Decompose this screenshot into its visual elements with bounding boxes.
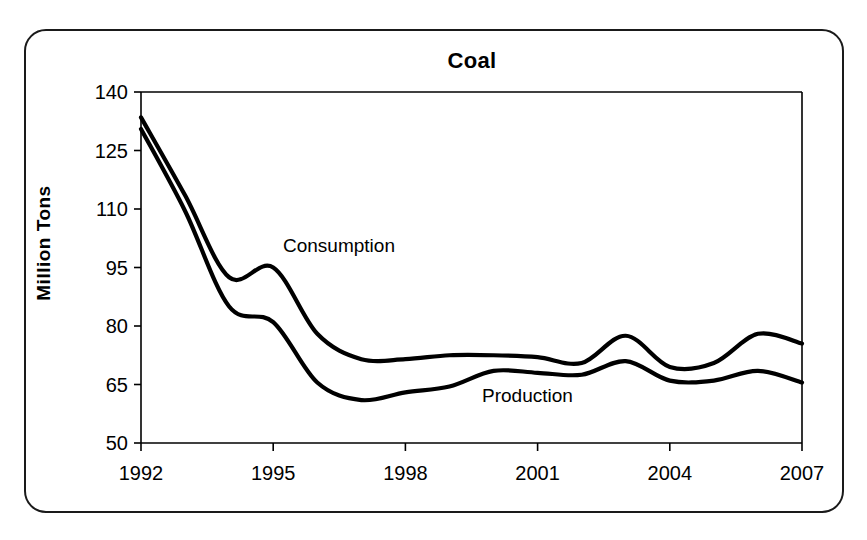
x-tick-label: 1998 [350,463,460,483]
y-tick-label: 125 [66,141,128,161]
x-tick-label: 1992 [86,463,196,483]
y-tick-label: 65 [66,375,128,395]
plot-canvas [0,0,867,540]
y-tick-label: 95 [66,258,128,278]
data-series-group [141,117,802,400]
x-tick-label: 2004 [615,463,725,483]
series-label-consumption: Consumption [283,236,395,256]
y-tick-label: 110 [66,199,128,219]
x-tick-label: 2007 [747,463,857,483]
series-line-consumption [141,117,802,369]
y-tick-label: 140 [66,82,128,102]
x-tick-label: 2001 [483,463,593,483]
series-label-production: Production [482,386,573,406]
axis-lines [134,92,802,451]
chart-figure: Coal Million Tons 50658095110125140 1992… [0,0,867,540]
y-tick-label: 50 [66,433,128,453]
y-tick-label: 80 [66,316,128,336]
series-line-production [141,129,802,400]
x-tick-label: 1995 [218,463,328,483]
